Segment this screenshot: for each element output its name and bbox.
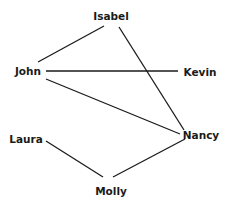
node-laura: Laura xyxy=(9,133,43,145)
node-isabel: Isabel xyxy=(93,10,128,22)
nodes: Isabel John Kevin Laura Nancy Molly xyxy=(9,10,219,197)
edges xyxy=(38,26,185,177)
edge-molly-nancy xyxy=(113,139,185,177)
node-kevin: Kevin xyxy=(184,66,217,78)
node-molly: Molly xyxy=(95,185,127,197)
edge-john-nancy xyxy=(46,79,180,134)
edge-laura-molly xyxy=(46,141,103,177)
graph-diagram: Isabel John Kevin Laura Nancy Molly xyxy=(0,0,230,208)
node-john: John xyxy=(14,65,41,77)
node-nancy: Nancy xyxy=(183,129,220,141)
edge-isabel-nancy xyxy=(119,27,184,130)
edge-isabel-john xyxy=(38,26,104,62)
